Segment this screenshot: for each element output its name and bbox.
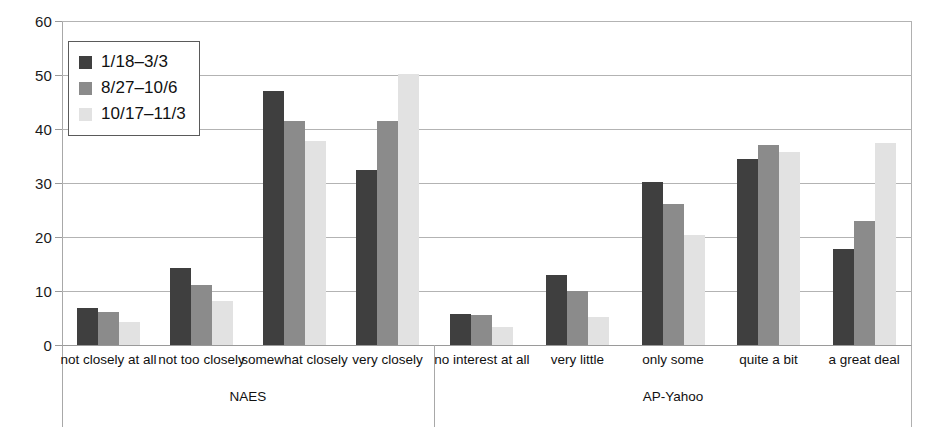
legend-item: 1/18–3/3 (79, 49, 186, 75)
y-axis-tick-label: 20 (12, 229, 52, 246)
y-axis-tick-label: 30 (12, 175, 52, 192)
bar (758, 145, 779, 345)
legend-swatch-icon (79, 82, 92, 95)
y-axis-tick-label: 50 (12, 67, 52, 84)
bar (119, 322, 140, 345)
category-label: not closely at all (55, 352, 162, 368)
bar (191, 285, 212, 345)
category-label: no interest at all (427, 352, 537, 368)
bar (875, 143, 896, 346)
bar (263, 91, 284, 345)
bar (98, 312, 119, 345)
y-axis-tick (55, 291, 62, 292)
bar (356, 170, 377, 346)
bar (833, 249, 854, 345)
group-label: AP-Yahoo (583, 389, 763, 404)
legend-swatch-icon (79, 108, 92, 121)
bar (284, 121, 305, 345)
legend-item: 10/17–11/3 (79, 101, 186, 127)
bar (546, 275, 567, 345)
category-label: very closely (334, 352, 441, 368)
legend-label: 1/18–3/3 (101, 52, 168, 72)
y-axis-tick-label: 10 (12, 283, 52, 300)
y-axis-tick (55, 237, 62, 238)
y-axis-tick (55, 345, 62, 346)
category-label: not too closely (148, 352, 255, 368)
chart-legend: 1/18–3/38/27–10/610/17–11/3 (68, 41, 200, 136)
category-label: only some (618, 352, 728, 368)
category-label: quite a bit (714, 352, 824, 368)
category-label: a great deal (809, 352, 919, 368)
bar (170, 268, 191, 345)
group-label: NAES (158, 389, 338, 404)
bar (854, 221, 875, 345)
y-axis-tick (55, 75, 62, 76)
bar (450, 314, 471, 345)
y-axis-tick (55, 129, 62, 130)
bar (377, 121, 398, 345)
y-axis-tick-label: 40 (12, 121, 52, 138)
bar (492, 327, 513, 345)
bar (212, 301, 233, 345)
bar (567, 291, 588, 345)
legend-label: 10/17–11/3 (101, 104, 186, 124)
bar-chart: 0102030405060 1/18–3/38/27–10/610/17–11/… (0, 0, 935, 427)
y-axis-tick-label: 0 (12, 337, 52, 354)
legend-swatch-icon (79, 56, 92, 69)
bar (398, 74, 419, 345)
bar (77, 308, 98, 345)
legend-item: 8/27–10/6 (79, 75, 186, 101)
category-label: somewhat closely (241, 352, 348, 368)
bar (588, 317, 609, 345)
y-axis-tick (55, 21, 62, 22)
bar (737, 159, 758, 345)
bar (471, 315, 492, 345)
bar (779, 152, 800, 345)
legend-label: 8/27–10/6 (101, 78, 178, 98)
bar (684, 235, 705, 345)
bar (305, 141, 326, 345)
bar (663, 204, 684, 345)
category-label: very little (523, 352, 633, 368)
y-axis-tick-label: 60 (12, 13, 52, 30)
y-axis-tick (55, 183, 62, 184)
bar (642, 182, 663, 345)
